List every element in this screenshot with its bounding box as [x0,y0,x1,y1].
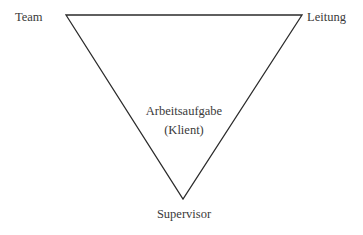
vertex-label-supervisor: Supervisor [134,207,234,222]
vertex-label-leitung: Leitung [307,10,346,25]
vertex-label-team: Team [15,10,43,25]
triangle-diagram: Team Leitung Arbeitsaufgabe (Klient) Sup… [0,0,363,235]
center-label-task: Arbeitsaufgabe [134,104,234,119]
center-label-client: (Klient) [134,123,234,138]
